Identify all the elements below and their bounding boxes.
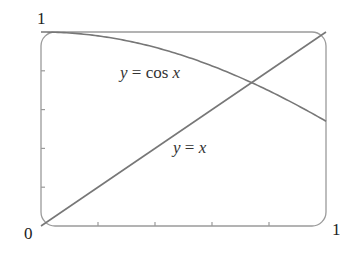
identity-line-label: y = x — [173, 139, 206, 156]
curve-y-equals-cos-x — [41, 32, 326, 121]
line-label-y: y — [173, 138, 181, 157]
origin-label: 0 — [24, 225, 33, 242]
cos-label-eq: = cos — [128, 63, 173, 82]
cos-curve-label: y = cos x — [120, 64, 180, 81]
cos-label-x: x — [173, 63, 181, 82]
line-label-x: x — [199, 138, 207, 157]
y-axis-max-label: 1 — [37, 10, 46, 27]
cos-label-y: y — [120, 63, 128, 82]
line-y-equals-x — [41, 32, 326, 226]
line-label-eq: = — [181, 138, 199, 157]
x-axis-max-label: 1 — [332, 221, 341, 238]
plot-area — [0, 0, 358, 259]
